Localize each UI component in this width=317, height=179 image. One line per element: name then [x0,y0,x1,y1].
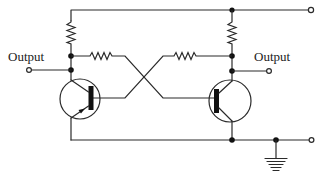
q2-base-bar [214,89,219,113]
transistor-q1 [60,79,100,140]
right-output-terminal [267,69,272,74]
left-output-terminal [27,68,32,73]
resistor-r2 [228,10,236,56]
left-output-label: Output [8,49,45,64]
left-collector-node: Output [8,49,74,80]
transistor-q2 [209,80,251,140]
circuit-diagram: Output Output [0,0,317,179]
right-output-label: Output [254,49,291,64]
right-collector-node: Output [229,49,290,81]
q1-base-bar [89,86,94,110]
supply-terminal [308,7,313,12]
bottom-common-rail [71,137,314,143]
top-supply-rail [71,7,314,20]
common-terminal [309,138,314,143]
junction-dot [229,137,235,143]
resistor-r1 [67,20,75,56]
ground-icon [265,140,287,171]
